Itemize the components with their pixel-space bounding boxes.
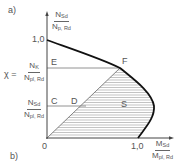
region-s-label: S: [121, 100, 127, 109]
point-e-label: E: [51, 58, 57, 67]
chi-fraction: NK Npl, Rd: [24, 62, 44, 82]
panel-label-b: b): [10, 152, 18, 161]
point-f-label: F: [122, 57, 128, 66]
y-axis-arrow-icon: [45, 11, 48, 16]
nsd-fraction: NSd Npl, Rd: [24, 99, 44, 119]
chi-prefix: χ =: [4, 70, 16, 79]
interaction-curve: [47, 40, 154, 138]
point-c-label: C: [51, 97, 58, 106]
x-tick-1: 1,0: [131, 142, 144, 151]
point-d-label: D: [71, 97, 78, 106]
panel-label-a: a): [8, 6, 16, 15]
y-axis-label: NSd Np, Rd: [52, 11, 71, 31]
x-tick-0: 0: [42, 142, 47, 151]
x-axis-label: MSd Mpl, Rd: [152, 140, 173, 160]
y-tick-1: 1,0: [32, 35, 45, 44]
hatched-region-s: [40, 70, 160, 135]
